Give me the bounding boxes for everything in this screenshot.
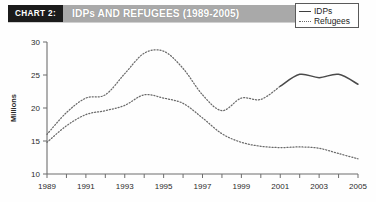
- legend-item-idps: IDPs: [299, 6, 355, 16]
- x-tick-label: 2005: [349, 182, 367, 191]
- chart-number-tag: CHART 2:: [8, 5, 63, 22]
- y-tick-label: 20: [31, 104, 40, 113]
- x-tick-label: 2003: [310, 182, 328, 191]
- y-tick-label: 10: [31, 170, 40, 179]
- y-tick-label: 25: [31, 71, 40, 80]
- x-tick-label: 1999: [232, 182, 250, 191]
- x-tick-label: 1993: [116, 182, 134, 191]
- x-tick-label: 1991: [77, 182, 95, 191]
- x-tick-label: 2001: [271, 182, 289, 191]
- series-group: [47, 50, 358, 159]
- chart-legend: IDPs Refugees: [295, 3, 359, 28]
- x-tick-label: 1997: [194, 182, 212, 191]
- series-line-idps-solid: [280, 74, 358, 86]
- chart-page: CHART 2: IDPs AND REFUGEES (1989-2005) 1…: [0, 0, 376, 202]
- series-line-refugees: [47, 95, 358, 159]
- axes-group: 1015202530Millions1989199119931995199719…: [9, 38, 367, 191]
- legend-label-idps: IDPs: [314, 6, 332, 16]
- y-tick-label: 30: [31, 38, 40, 47]
- series-line-idps-dotted: [47, 50, 280, 135]
- legend-label-refugees: Refugees: [314, 16, 350, 26]
- legend-item-refugees: Refugees: [299, 16, 355, 26]
- legend-line-dotted-icon: [299, 18, 311, 24]
- plot-area: 1015202530Millions1989199119931995199719…: [0, 24, 376, 202]
- line-chart-svg: 1015202530Millions1989199119931995199719…: [0, 24, 376, 202]
- legend-line-solid-icon: [299, 8, 311, 14]
- y-tick-label: 15: [31, 137, 40, 146]
- y-axis-title: Millions: [9, 94, 18, 122]
- x-tick-label: 1995: [155, 182, 173, 191]
- chart-title-bar: CHART 2: IDPs AND REFUGEES (1989-2005): [8, 5, 337, 22]
- x-tick-label: 1989: [38, 182, 56, 191]
